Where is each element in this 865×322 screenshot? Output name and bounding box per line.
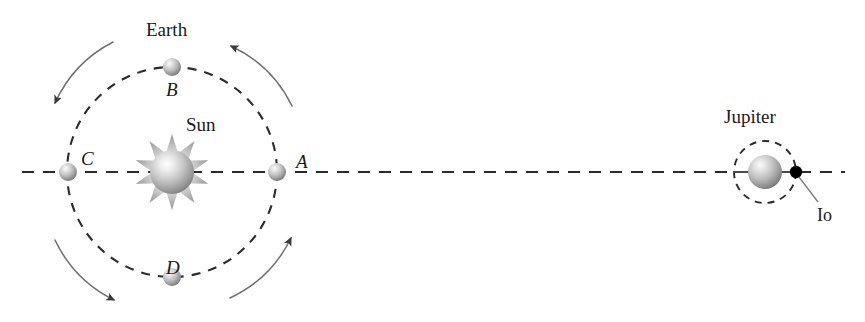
io-label: Io	[817, 206, 832, 224]
earth-sphere-c	[59, 163, 77, 181]
position-a-label: A	[296, 152, 308, 171]
jupiter-sphere	[748, 155, 782, 189]
earth-label: Earth	[146, 20, 187, 39]
io-leader-line	[799, 177, 818, 202]
arrow-upper-right	[231, 46, 292, 106]
arrow-upper-left	[55, 42, 113, 103]
diagram-canvas	[0, 0, 865, 322]
jupiter-label: Jupiter	[724, 107, 776, 126]
sun-sphere	[150, 150, 194, 194]
position-d-label: D	[166, 258, 180, 277]
arrow-lower-left	[55, 240, 114, 300]
earth-sphere-b	[163, 58, 181, 76]
position-c-label: C	[81, 149, 94, 168]
sun-label: Sun	[186, 115, 216, 134]
arrow-lower-right	[230, 238, 291, 298]
orbit-diagram-figure: Sun Earth B A C D Jupiter Io	[0, 0, 865, 322]
io-moon	[790, 166, 802, 178]
earth-sphere-a	[268, 163, 286, 181]
position-b-label: B	[166, 80, 178, 99]
